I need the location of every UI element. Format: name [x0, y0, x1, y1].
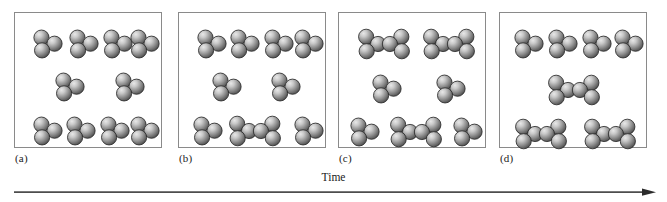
time-arrow-icon [14, 188, 656, 197]
molecule-triatomic [293, 116, 324, 151]
molecule-hexatomic_dimer [422, 28, 476, 65]
molecule-triatomic [270, 72, 301, 107]
time-axis: Time [0, 170, 667, 202]
panel-a: (a) [14, 0, 164, 175]
molecule-triatomic [581, 29, 612, 64]
molecule-triatomic [263, 29, 294, 64]
molecule-triatomic [54, 72, 85, 107]
molecule-triatomic [32, 116, 63, 151]
molecule-triatomic [192, 116, 223, 151]
molecule-triatomic [65, 116, 96, 151]
panel-b-molecules [179, 13, 325, 147]
panel-b-box [178, 12, 326, 148]
panel-d: (d) [499, 0, 649, 175]
molecule-triatomic [452, 117, 483, 152]
molecule-triatomic [547, 29, 578, 64]
molecule-triatomic [613, 29, 644, 64]
panel-row: (a) (b) (c) (d) [0, 0, 667, 175]
molecule-hexatomic_dimer [547, 74, 601, 111]
molecule-triatomic [129, 116, 160, 151]
molecule-triatomic [435, 74, 466, 109]
molecule-triatomic [68, 29, 99, 64]
molecule-triatomic [371, 74, 402, 109]
molecule-hexatomic_dimer [228, 115, 282, 152]
panel-b-label: (b) [179, 152, 192, 164]
panel-a-box [14, 12, 162, 148]
panel-b: (b) [178, 0, 328, 175]
panel-c-molecules [339, 13, 485, 147]
panel-c-box [338, 12, 486, 148]
molecule-triatomic [196, 29, 227, 64]
molecule-triatomic [32, 29, 63, 64]
panel-d-box [499, 12, 647, 148]
molecule-triatomic [293, 29, 324, 64]
molecule-hexatomic_dimer [583, 118, 637, 155]
molecule-triatomic [211, 72, 242, 107]
time-axis-label: Time [0, 170, 667, 184]
molecule-triatomic [99, 116, 130, 151]
molecule-hexatomic_dimer [357, 28, 411, 65]
panel-c-label: (c) [339, 152, 352, 164]
panel-a-molecules [15, 13, 161, 147]
molecular-time-sequence-figure: (a) (b) (c) (d) Time [0, 0, 667, 202]
molecule-triatomic [114, 72, 145, 107]
panel-d-label: (d) [500, 152, 513, 164]
molecule-triatomic [349, 117, 380, 152]
molecule-triatomic [129, 29, 160, 64]
panel-d-molecules [500, 13, 646, 147]
molecule-triatomic [513, 29, 544, 64]
molecule-hexatomic_dimer [514, 118, 568, 155]
molecule-triatomic [229, 29, 260, 64]
molecule-hexatomic_dimer [389, 116, 443, 153]
panel-a-label: (a) [15, 152, 28, 164]
panel-c: (c) [338, 0, 488, 175]
